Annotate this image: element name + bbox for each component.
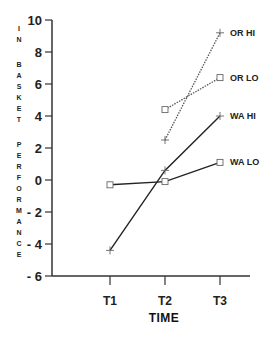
y-tick-label: 4 (35, 109, 43, 124)
x-axis: T1T2T3 (52, 276, 250, 308)
y-axis-title-letter: A (16, 218, 21, 225)
y-axis-title-letter: E (17, 105, 22, 112)
y-axis-title-letter: E (17, 152, 22, 159)
x-tick-label: T2 (158, 294, 172, 308)
y-axis-title-letter: P (17, 141, 22, 148)
x-axis-title: TIME (149, 311, 180, 325)
y-tick-label: - 4 (27, 237, 43, 252)
square-marker-icon (162, 179, 168, 185)
series-label: WA LO (230, 157, 259, 167)
y-tick-label: 8 (35, 45, 42, 60)
series-label: OR HI (230, 28, 255, 38)
y-axis-title-letter: I (18, 25, 20, 32)
square-marker-icon (217, 75, 223, 81)
series-or-hi: OR HI (161, 28, 255, 144)
y-tick-label: 2 (35, 141, 42, 156)
series-layer: OR HIOR LOWA HIWA LO (106, 28, 259, 255)
y-axis-title-letter: N (16, 36, 21, 43)
line-chart: INBASKETPERFORMANCE 1086420- 2- 4- 6 T1T… (0, 0, 266, 338)
y-tick-label: - 6 (27, 269, 42, 284)
series-or-lo: OR LO (162, 73, 259, 113)
y-tick-label: 0 (35, 173, 42, 188)
y-axis-title-letter: N (16, 229, 21, 236)
y-axis-title-letter: R (16, 196, 21, 203)
square-marker-icon (217, 159, 223, 165)
y-axis-title: INBASKETPERFORMANCE (16, 25, 22, 258)
series-label: WA HI (230, 111, 256, 121)
series-wa-hi: WA HI (106, 111, 256, 254)
y-axis-title-letter: T (17, 116, 22, 123)
y-axis-title-letter: A (16, 72, 21, 79)
y-axis-title-letter: O (16, 185, 22, 192)
series-wa-lo: WA LO (107, 157, 259, 187)
x-tick-label: T1 (103, 294, 117, 308)
plus-marker-icon (161, 136, 169, 144)
series-label: OR LO (230, 73, 259, 83)
y-axis-title-letter: S (17, 83, 22, 90)
square-marker-icon (162, 107, 168, 113)
y-axis-title-letter: C (16, 240, 21, 247)
y-axis-title-letter: M (16, 207, 22, 214)
y-axis-title-letter: R (16, 163, 21, 170)
y-axis: 1086420- 2- 4- 6 (27, 13, 52, 284)
plus-marker-icon (216, 29, 224, 37)
x-tick-label: T3 (213, 294, 227, 308)
y-axis-title-letter: B (16, 61, 21, 68)
plus-marker-icon (106, 246, 114, 254)
y-axis-title-letter: K (16, 94, 21, 101)
y-tick-label: 6 (35, 77, 42, 92)
y-axis-title-letter: E (17, 251, 22, 258)
square-marker-icon (107, 182, 113, 188)
y-tick-label: 10 (28, 13, 42, 28)
y-tick-label: - 2 (27, 205, 42, 220)
y-axis-title-letter: F (17, 174, 22, 181)
